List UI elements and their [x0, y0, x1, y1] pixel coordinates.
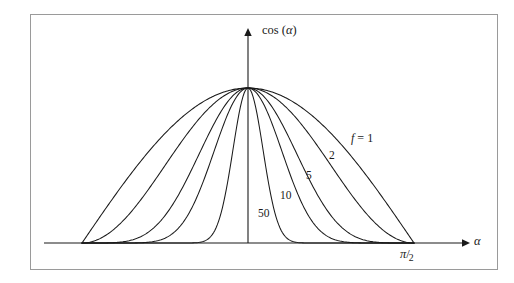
- x-axis-arrowhead: [462, 239, 470, 247]
- y-axis-label-paren: ): [293, 23, 297, 37]
- curve-label-f1: f = 1: [351, 132, 373, 144]
- y-axis-arrowhead: [244, 28, 251, 36]
- curve-label-f1-value: 1: [367, 131, 373, 145]
- plot-canvas: [0, 0, 514, 283]
- y-axis-label-text: cos (: [262, 23, 286, 37]
- curve-label-f10: 10: [280, 190, 292, 202]
- curve-label-f5: 5: [306, 170, 312, 182]
- x-axis-label: α: [474, 235, 481, 248]
- pi-denominator: 2: [409, 252, 414, 263]
- y-axis-label: cos (α): [262, 24, 297, 37]
- figure-root: cos (α) α π/2 f = 1 2 5 10 50: [0, 0, 514, 283]
- curve-label-f50: 50: [258, 208, 270, 220]
- curve-label-f2: 2: [329, 150, 335, 162]
- axes-group: [44, 28, 470, 247]
- curve-label-f1-equals: =: [354, 131, 367, 145]
- x-axis-tick-label-pi-over-2: π/2: [400, 248, 415, 261]
